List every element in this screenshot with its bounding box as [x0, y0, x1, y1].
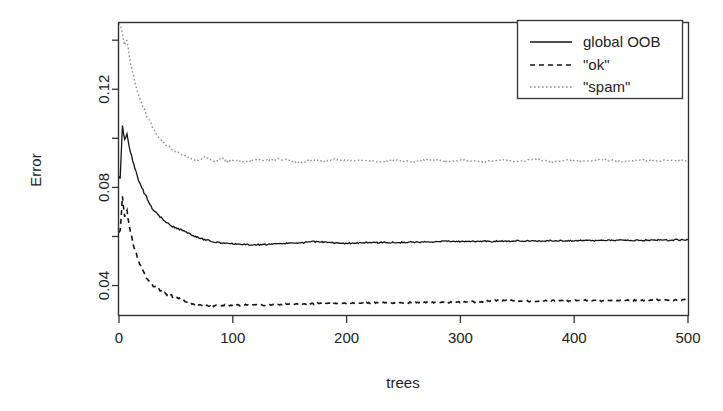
x-tick-label-300: 300 [448, 329, 473, 346]
chart-canvas: 0.040.080.12 0100200300400500 trees Erro… [0, 0, 723, 411]
x-tick-label-200: 200 [334, 329, 359, 346]
y-axis-title: Error [27, 153, 44, 186]
legend-label-dotted: "spam" [583, 78, 630, 95]
legend-label-dashed: "ok" [583, 56, 610, 73]
chart-legend: global OOB"ok""spam" [518, 21, 683, 99]
x-axis-title: trees [386, 374, 419, 391]
x-tick-label-500: 500 [675, 329, 700, 346]
x-tick-label-400: 400 [562, 329, 587, 346]
y-tick-label-0.08: 0.08 [95, 173, 112, 202]
y-tick-label-0.12: 0.12 [95, 75, 112, 104]
error-vs-trees-chart: 0.040.080.12 0100200300400500 trees Erro… [0, 0, 723, 411]
legend-label-solid: global OOB [583, 33, 661, 50]
x-tick-label-100: 100 [220, 329, 245, 346]
y-tick-label-0.04: 0.04 [95, 271, 112, 300]
x-tick-label-0: 0 [115, 329, 123, 346]
